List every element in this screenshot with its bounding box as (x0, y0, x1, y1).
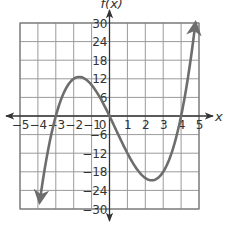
x-tick-label: 5 (196, 118, 204, 132)
y-tick-label: −12 (82, 147, 107, 161)
y-tick-label: 12 (92, 72, 107, 86)
x-tick-label: −3 (47, 118, 65, 132)
y-tick-label: 30 (92, 17, 107, 31)
y-tick-label: 24 (92, 35, 107, 49)
y-tick-label: 18 (92, 54, 107, 68)
y-axis-label: f(x) (101, 0, 123, 11)
x-tick-label: −5 (12, 118, 30, 132)
x-tick-label: 3 (160, 118, 168, 132)
x-tick-label: 2 (142, 118, 150, 132)
cubic-curve (40, 23, 196, 202)
x-tick-label: −4 (30, 118, 48, 132)
y-tick-label: −30 (82, 203, 107, 217)
y-tick-label: −18 (82, 165, 107, 179)
function-curve (40, 23, 196, 202)
x-axis-label: x (214, 109, 223, 124)
y-tick-label: −6 (90, 128, 108, 142)
x-tick-label: 1 (124, 118, 132, 132)
cubic-function-graph: −5−4−3−2−1012345−30−24−18−12−6612182430 … (0, 0, 227, 225)
x-tick-label: −2 (65, 118, 83, 132)
y-tick-label: −24 (82, 184, 107, 198)
